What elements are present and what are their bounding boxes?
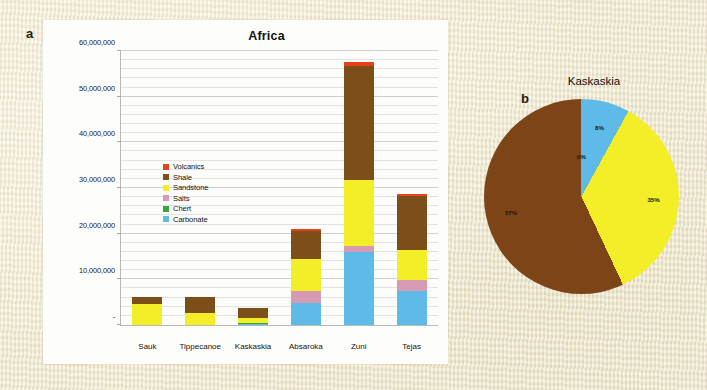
pie-slice-percentage-label: 8%	[595, 123, 604, 130]
bar-segment-sandstone[interactable]	[132, 304, 162, 325]
pie-chart-title: Kaskaskia	[470, 75, 700, 87]
bar-segment-carbonate[interactable]	[238, 324, 268, 325]
bar-chart-panel: Africa -10,000,00020,000,00030,000,00040…	[43, 20, 448, 364]
x-axis-label: Tejas	[402, 342, 421, 351]
legend-label: Sandstone	[173, 183, 208, 192]
legend-swatch-icon	[163, 164, 169, 170]
bar-stack[interactable]	[185, 297, 215, 325]
bar-segment-shale[interactable]	[344, 66, 374, 180]
legend-label: Chert	[173, 204, 191, 213]
x-axis-label: Absaroka	[289, 342, 323, 351]
legend-swatch-icon	[163, 206, 169, 212]
bar-column[interactable]: Tejas	[385, 51, 438, 325]
legend-item-chert[interactable]: Chert	[163, 204, 208, 213]
legend-item-volcanics[interactable]: Volcanics	[163, 162, 208, 171]
bar-stack[interactable]	[344, 62, 374, 325]
bar-segment-sandstone[interactable]	[344, 180, 374, 246]
bar-segment-salts[interactable]	[397, 280, 427, 291]
bar-column[interactable]: Absaroka	[279, 51, 332, 325]
bar-segment-shale[interactable]	[132, 297, 162, 304]
bar-stack[interactable]	[397, 193, 427, 325]
bar-segment-carbonate[interactable]	[344, 252, 374, 325]
legend-label: Salts	[173, 194, 189, 203]
pie-slice-percentage-label: 0%	[577, 152, 586, 159]
bar-stack[interactable]	[132, 297, 162, 325]
x-axis-label: Kaskaskia	[235, 342, 271, 351]
bar-segment-sandstone[interactable]	[185, 313, 215, 325]
y-axis-tick-label: 20,000,000	[79, 220, 115, 229]
legend-swatch-icon	[163, 174, 169, 180]
y-axis-tick-label: 40,000,000	[79, 129, 115, 138]
legend-label: Volcanics	[173, 162, 204, 171]
x-axis-label: Tippecanoe	[179, 342, 221, 351]
bar-stack[interactable]	[291, 229, 321, 325]
pie-slice-percentage-label: 57%	[505, 209, 517, 216]
bar-segment-sandstone[interactable]	[397, 250, 427, 280]
legend-swatch-icon	[163, 216, 169, 222]
bar-segment-shale[interactable]	[397, 196, 427, 249]
bar-segment-shale[interactable]	[185, 297, 215, 313]
legend-item-carbonate[interactable]: Carbonate	[163, 215, 208, 224]
bar-column[interactable]: Kaskaskia	[227, 51, 280, 325]
bar-segment-shale[interactable]	[238, 308, 268, 318]
legend-label: Carbonate	[173, 215, 208, 224]
pie-chart-wrapper: 0%8%35%57%	[484, 99, 679, 294]
y-axis-tick-label: 10,000,000	[79, 266, 115, 275]
pie-slice-percentage-label: 35%	[647, 195, 659, 202]
legend-swatch-icon	[163, 185, 169, 191]
legend-swatch-icon	[163, 195, 169, 201]
legend-item-sandstone[interactable]: Sandstone	[163, 183, 208, 192]
chart-legend: VolcanicsShaleSandstoneSaltsChertCarbona…	[163, 162, 208, 224]
bar-segment-carbonate[interactable]	[291, 303, 321, 325]
y-axis-tick-label: -	[113, 312, 115, 321]
panel-a-letter: a	[26, 26, 33, 41]
x-axis-label: Sauk	[138, 342, 156, 351]
legend-label: Shale	[173, 173, 192, 182]
pie-chart-panel: Kaskaskia 0%8%35%57%	[470, 75, 700, 365]
panel-b-letter: b	[521, 91, 529, 106]
y-axis-tick-label: 60,000,000	[79, 38, 115, 47]
y-axis-tick-label: 50,000,000	[79, 83, 115, 92]
bar-segment-shale[interactable]	[291, 231, 321, 259]
y-axis-tick-label: 30,000,000	[79, 175, 115, 184]
bar-segment-carbonate[interactable]	[397, 291, 427, 325]
bar-stack[interactable]	[238, 308, 268, 325]
x-axis-label: Zuni	[351, 342, 367, 351]
bar-segment-salts[interactable]	[291, 291, 321, 303]
legend-item-shale[interactable]: Shale	[163, 173, 208, 182]
bar-segment-sandstone[interactable]	[291, 259, 321, 291]
legend-item-salts[interactable]: Salts	[163, 194, 208, 203]
bar-column[interactable]: Zuni	[332, 51, 385, 325]
